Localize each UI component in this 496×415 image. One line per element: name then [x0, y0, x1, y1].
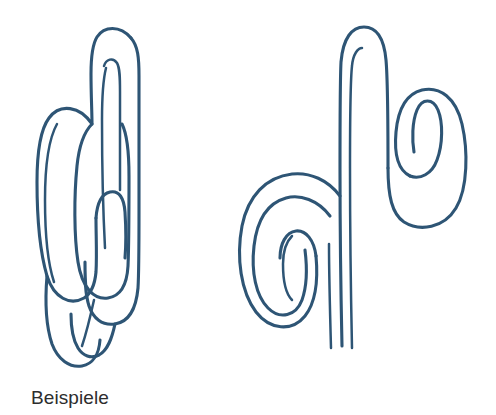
right-figure-upper-right-loop-outer — [388, 89, 466, 227]
left-figure-arch-inner-line — [102, 68, 106, 248]
left-figure-top-hook-stroke — [104, 59, 120, 190]
right-figure-lower-left-spiral-mid — [253, 197, 330, 315]
left-figure-outer-stroke — [37, 29, 131, 302]
right-figure-lower-left-filament — [283, 236, 292, 300]
left-figure-left-filament — [45, 124, 57, 282]
right-figure-arch-left-stroke — [340, 27, 388, 346]
illustration-canvas: Beispiele — [0, 0, 496, 415]
left-figure-tail-inner-stroke — [71, 314, 115, 357]
right-figure-arch-inner-line — [350, 48, 362, 348]
left-figure-inner-loop-2-stroke — [96, 192, 126, 258]
left-meander-figure — [37, 29, 139, 367]
right-figure-upper-right-loop-inner — [410, 101, 442, 177]
right-figure-trailing-line — [329, 244, 331, 348]
figure-caption: Beispiele — [31, 387, 109, 409]
illustration-page: Beispiele — [0, 0, 496, 415]
right-meander-figure — [240, 27, 466, 348]
